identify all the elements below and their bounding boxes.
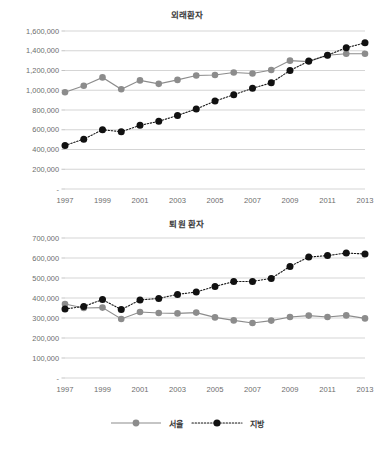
data-point-seoul (137, 309, 144, 316)
data-point-seoul (305, 312, 312, 319)
data-point-province (137, 122, 144, 129)
plot-area-discharged: -100,000200,000300,000400,000500,000600,… (0, 230, 374, 410)
data-point-province (305, 254, 312, 261)
data-point-province (174, 112, 181, 119)
data-point-seoul (212, 314, 219, 321)
chart-outpatients: 외래환자 -200,000400,000600,000800,0001,000,… (0, 0, 374, 212)
chart-page: 외래환자 -200,000400,000600,000800,0001,000,… (0, 0, 374, 457)
data-point-province (268, 79, 275, 86)
data-point-province (362, 39, 369, 46)
data-point-province (230, 278, 237, 285)
data-point-province (193, 106, 200, 113)
data-point-province (99, 126, 106, 133)
x-axis-tick-label: 2003 (169, 196, 186, 205)
data-point-province (212, 283, 219, 290)
chart-discharged: 퇴원 환자 -100,000200,000300,000400,000500,0… (0, 212, 374, 424)
legend-item-province[interactable]: 지방 (191, 417, 264, 429)
legend-item-seoul[interactable]: 서울 (110, 417, 183, 429)
x-axis-tick-label: 2013 (357, 385, 374, 394)
legend-marker-seoul-icon (110, 417, 162, 429)
x-axis-tick-label: 2001 (132, 385, 149, 394)
x-axis-tick-label: 2011 (319, 196, 335, 205)
legend-marker-province-icon (191, 417, 243, 429)
data-point-seoul (62, 89, 69, 96)
data-point-seoul (287, 57, 294, 64)
x-axis-tick-label: 2013 (357, 196, 374, 205)
data-point-seoul (118, 316, 125, 323)
data-point-province (62, 306, 69, 313)
y-axis-tick-label: 800,000 (32, 106, 59, 115)
data-point-seoul (343, 50, 350, 57)
data-point-seoul (343, 312, 350, 319)
data-point-province (80, 303, 87, 310)
y-axis-tick-label: - (57, 185, 60, 194)
data-point-province (230, 91, 237, 98)
y-axis-tick-label: 200,000 (32, 334, 59, 343)
data-point-seoul (249, 70, 256, 77)
x-axis-tick-label: 2011 (319, 385, 335, 394)
data-point-seoul (362, 315, 369, 322)
data-point-province (324, 52, 331, 59)
y-axis-tick-label: 1,000,000 (26, 86, 59, 95)
y-axis-tick-label: 300,000 (32, 314, 59, 323)
data-point-province (362, 251, 369, 258)
data-point-province (80, 136, 87, 143)
chart-title-discharged: 퇴원 환자 (0, 212, 374, 230)
data-point-province (174, 291, 181, 298)
data-point-seoul (193, 309, 200, 316)
data-point-province (118, 306, 125, 313)
legend-label-seoul: 서울 (169, 418, 183, 429)
chart-title-outpatients: 외래환자 (0, 0, 374, 21)
y-axis-tick-label: 100,000 (32, 354, 59, 363)
data-point-province (137, 297, 144, 304)
x-axis-tick-label: 2009 (282, 196, 299, 205)
data-point-province (324, 252, 331, 259)
data-point-province (249, 85, 256, 92)
x-axis-tick-label: 2003 (169, 385, 186, 394)
x-axis-tick-label: 2001 (132, 196, 149, 205)
x-axis-tick-label: 2009 (282, 385, 299, 394)
data-point-province (212, 98, 219, 105)
data-point-seoul (118, 86, 125, 93)
data-point-seoul (230, 69, 237, 76)
data-point-seoul (174, 77, 181, 84)
x-axis-tick-label: 1999 (94, 196, 111, 205)
y-axis-tick-label: 400,000 (32, 145, 59, 154)
data-point-province (287, 263, 294, 270)
data-point-province (62, 142, 69, 149)
data-point-province (155, 295, 162, 302)
y-axis-tick-label: 200,000 (32, 165, 59, 174)
x-axis-tick-label: 2007 (244, 385, 261, 394)
y-axis-tick-label: 600,000 (32, 125, 59, 134)
data-point-seoul (137, 77, 144, 84)
data-point-seoul (230, 317, 237, 324)
data-point-province (155, 118, 162, 125)
data-point-province (287, 67, 294, 74)
data-point-province (249, 278, 256, 285)
series-line-province (65, 253, 365, 310)
plot-svg-discharged: -100,000200,000300,000400,000500,000600,… (0, 230, 374, 410)
x-axis-tick-label: 2007 (244, 196, 261, 205)
data-point-seoul (362, 50, 369, 57)
y-axis-tick-label: 700,000 (32, 234, 59, 243)
data-point-seoul (80, 83, 87, 90)
data-point-province (118, 128, 125, 135)
data-point-seoul (193, 72, 200, 79)
data-point-province (268, 275, 275, 282)
x-axis-tick-label: 1999 (94, 385, 111, 394)
y-axis-tick-label: 500,000 (32, 274, 59, 283)
data-point-seoul (99, 74, 106, 81)
data-point-province (343, 44, 350, 51)
y-axis-tick-label: 1,400,000 (26, 46, 59, 55)
data-point-seoul (324, 314, 331, 321)
data-point-province (193, 289, 200, 296)
data-point-seoul (174, 310, 181, 317)
data-point-seoul (212, 72, 219, 79)
x-axis-tick-label: 1997 (57, 196, 74, 205)
data-point-province (99, 296, 106, 303)
data-point-province (343, 250, 350, 257)
plot-svg-outpatients: -200,000400,000600,000800,0001,000,0001,… (0, 21, 374, 217)
chart-legend: 서울 지방 (0, 412, 374, 434)
data-point-seoul (249, 320, 256, 327)
y-axis-tick-label: 600,000 (32, 254, 59, 263)
